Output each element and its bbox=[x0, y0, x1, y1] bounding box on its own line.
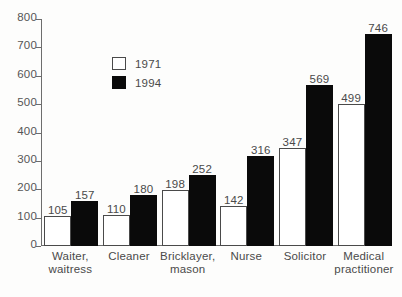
bar-value-label: 105 bbox=[48, 204, 68, 216]
bar-value-label: 198 bbox=[165, 178, 185, 190]
legend: 1971 1994 bbox=[112, 54, 161, 92]
bar-group: 105157 bbox=[44, 19, 98, 246]
bar: 110 bbox=[103, 215, 130, 246]
bar: 105 bbox=[44, 216, 71, 246]
plot-area: 105157110180198252142316347569499746 bbox=[41, 19, 393, 246]
bar-value-label: 252 bbox=[192, 163, 212, 175]
bar-value-label: 569 bbox=[310, 73, 330, 85]
bar-value-label: 316 bbox=[251, 144, 271, 156]
bar-group: 142316 bbox=[220, 19, 274, 246]
bar: 252 bbox=[189, 175, 216, 247]
y-axis-tick-label: 100 bbox=[3, 210, 37, 222]
bar-chart: 0100200300400500600700800 10515711018019… bbox=[0, 0, 402, 297]
bar: 157 bbox=[71, 201, 98, 246]
bar: 316 bbox=[247, 156, 274, 246]
bar: 198 bbox=[162, 190, 189, 246]
x-axis-category-label: Solicitor bbox=[276, 250, 335, 263]
bar-group: 198252 bbox=[162, 19, 216, 246]
bar: 142 bbox=[220, 206, 247, 246]
bar-value-label: 746 bbox=[368, 22, 388, 34]
bar-group: 499746 bbox=[338, 19, 392, 246]
y-axis-tick-label: 300 bbox=[3, 153, 37, 165]
legend-label: 1994 bbox=[135, 77, 161, 89]
bar-value-label: 142 bbox=[224, 194, 244, 206]
black-square-icon bbox=[112, 76, 126, 89]
y-axis-tick-label: 400 bbox=[3, 125, 37, 137]
bar: 569 bbox=[306, 85, 333, 246]
y-axis-tick-label: 600 bbox=[3, 68, 37, 80]
bar-value-label: 110 bbox=[107, 203, 126, 215]
y-axis-tick-label: 500 bbox=[3, 96, 37, 108]
bar-value-label: 157 bbox=[75, 189, 95, 201]
x-axis-category-label: Bricklayer,mason bbox=[158, 250, 217, 276]
legend-label: 1971 bbox=[135, 58, 161, 70]
legend-item-1994: 1994 bbox=[112, 73, 161, 92]
y-axis-tick-label: 0 bbox=[3, 238, 37, 250]
legend-item-1971: 1971 bbox=[112, 54, 161, 73]
bar-value-label: 180 bbox=[134, 183, 154, 195]
y-axis-tick-label: 700 bbox=[3, 39, 37, 51]
bar: 180 bbox=[130, 195, 157, 246]
bar: 746 bbox=[365, 34, 392, 246]
x-axis-category-label: Nurse bbox=[217, 250, 276, 263]
x-axis-category-label: Cleaner bbox=[100, 250, 159, 263]
x-axis-category-label: Waiter,waitress bbox=[41, 250, 100, 276]
y-axis-tick-label: 200 bbox=[3, 181, 37, 193]
y-axis-tick-label: 800 bbox=[3, 11, 37, 23]
bar: 347 bbox=[279, 148, 306, 246]
white-square-icon bbox=[112, 57, 126, 70]
x-axis-category-label: Medicalpractitioner bbox=[334, 250, 393, 276]
bar-value-label: 499 bbox=[341, 92, 361, 104]
bar-value-label: 347 bbox=[283, 136, 303, 148]
bar-group: 347569 bbox=[279, 19, 333, 246]
bar: 499 bbox=[338, 104, 365, 246]
